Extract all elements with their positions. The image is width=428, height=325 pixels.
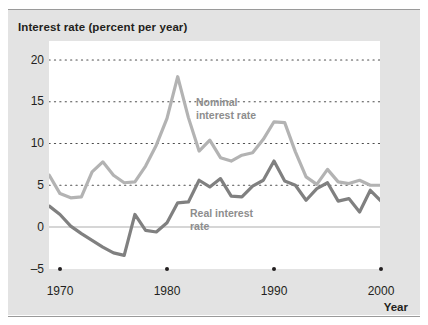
series-label-real: Real interest rate bbox=[190, 207, 253, 232]
figure-bottom-rule bbox=[8, 316, 420, 317]
y-tick-20: 20 bbox=[31, 53, 44, 67]
plot-area bbox=[49, 41, 380, 269]
chart-svg bbox=[49, 41, 380, 269]
y-tick-5: 5 bbox=[37, 178, 44, 192]
y-tick-0: 0 bbox=[37, 220, 44, 234]
x-axis-title: Year bbox=[384, 301, 408, 313]
y-tick-minus5: –5 bbox=[31, 262, 44, 276]
y-tick-15: 15 bbox=[31, 94, 44, 108]
figure-root: Interest rate (percent per year) 20 15 1… bbox=[0, 0, 428, 325]
x-tick-1980: 1980 bbox=[154, 284, 181, 298]
series-label-nominal: Nominal interest rate bbox=[196, 96, 256, 121]
x-tick-labels: 1970 1980 1990 2000 bbox=[0, 284, 428, 300]
x-tick-1970: 1970 bbox=[47, 284, 74, 298]
y-tick-labels: 20 15 10 5 0 –5 bbox=[12, 0, 44, 325]
y-tick-10: 10 bbox=[31, 136, 44, 150]
x-tick-2000: 2000 bbox=[368, 284, 395, 298]
series-line-nominal bbox=[49, 77, 380, 198]
x-tick-1990: 1990 bbox=[261, 284, 288, 298]
